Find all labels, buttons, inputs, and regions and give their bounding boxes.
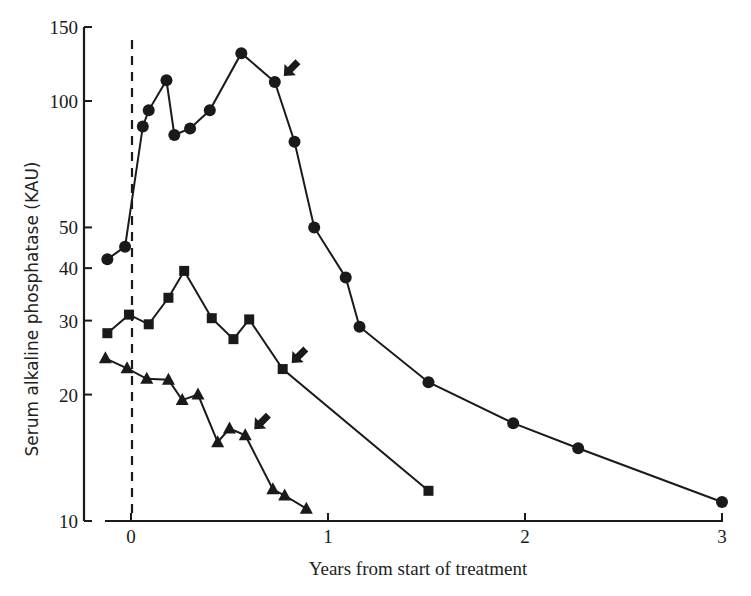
square-marker bbox=[144, 319, 154, 329]
series-layer bbox=[99, 47, 728, 514]
square-marker bbox=[423, 486, 433, 496]
circle-marker bbox=[137, 120, 149, 132]
x-tick-label: 1 bbox=[323, 526, 333, 547]
triangle-marker bbox=[266, 482, 279, 494]
circle-marker bbox=[235, 47, 247, 59]
circle-marker bbox=[204, 104, 216, 116]
annotation-layer bbox=[249, 56, 312, 435]
x-tick-label: 0 bbox=[126, 526, 136, 547]
square-marker bbox=[207, 313, 217, 323]
series-circle bbox=[101, 47, 728, 508]
y-tick-label: 50 bbox=[59, 217, 78, 238]
square-marker bbox=[278, 364, 288, 374]
arrow-head-icon bbox=[278, 56, 303, 81]
x-tick-label: 3 bbox=[717, 526, 727, 547]
circle-marker bbox=[160, 74, 172, 86]
arrow-head-icon bbox=[249, 409, 274, 434]
circle-marker bbox=[101, 253, 113, 265]
square-marker bbox=[124, 310, 134, 320]
triangle-marker bbox=[223, 422, 236, 434]
x-tick-label: 2 bbox=[520, 526, 530, 547]
circle-marker bbox=[184, 123, 196, 135]
triangle-marker bbox=[140, 372, 153, 384]
chart: 10203040501001500123 Serum alkaline phos… bbox=[0, 0, 751, 596]
y-tick-label: 100 bbox=[50, 91, 79, 112]
axes: 10203040501001500123 bbox=[50, 17, 727, 547]
circle-marker bbox=[119, 241, 131, 253]
y-tick-label: 20 bbox=[59, 385, 78, 406]
circle-marker bbox=[340, 271, 352, 283]
arrow-icon bbox=[249, 409, 274, 434]
circle-marker bbox=[572, 442, 584, 454]
circle-marker bbox=[716, 496, 728, 508]
triangle-marker bbox=[191, 388, 204, 400]
circle-marker bbox=[143, 104, 155, 116]
arrow-head-icon bbox=[286, 343, 311, 368]
y-axis-title: Serum alkaline phosphatase (KAU) bbox=[22, 162, 42, 457]
square-marker bbox=[163, 293, 173, 303]
y-tick-label: 40 bbox=[59, 258, 78, 279]
square-marker bbox=[179, 266, 189, 276]
square-marker bbox=[244, 314, 254, 324]
circle-marker bbox=[422, 376, 434, 388]
y-tick-label: 30 bbox=[59, 311, 78, 332]
triangle-marker bbox=[278, 489, 291, 501]
series-line bbox=[105, 358, 306, 508]
square-marker bbox=[228, 334, 238, 344]
series-line bbox=[107, 271, 428, 491]
triangle-marker bbox=[99, 351, 112, 363]
square-marker bbox=[102, 328, 112, 338]
arrow-icon bbox=[286, 343, 311, 368]
circle-marker bbox=[289, 136, 301, 148]
circle-marker bbox=[308, 221, 320, 233]
circle-marker bbox=[507, 417, 519, 429]
y-tick-label: 10 bbox=[59, 511, 78, 532]
y-tick-label: 150 bbox=[50, 17, 79, 38]
circle-marker bbox=[168, 129, 180, 141]
arrow-icon bbox=[278, 56, 303, 81]
x-axis-title: Years from start of treatment bbox=[309, 558, 528, 579]
circle-marker bbox=[354, 321, 366, 333]
series-line bbox=[107, 53, 722, 502]
circle-marker bbox=[269, 76, 281, 88]
series-square bbox=[102, 266, 433, 496]
triangle-marker bbox=[300, 502, 313, 514]
